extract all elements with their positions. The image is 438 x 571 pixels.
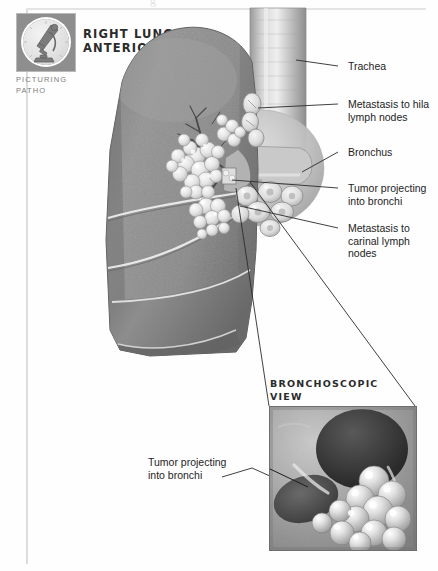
- label-tumor-projecting-line2: into bronchi: [348, 195, 402, 207]
- label-metastasis-carinal-line1: Metastasis to: [348, 222, 410, 234]
- label-tumor-projecting-line1: Tumor projecting: [348, 182, 426, 194]
- label-metastasis-hila-line2: lymph nodes: [348, 111, 408, 123]
- label-tumor-projecting: Tumor projecting into bronchi: [348, 182, 438, 207]
- label-trachea: Trachea: [348, 60, 436, 73]
- label-bronchus: Bronchus: [348, 146, 436, 159]
- label-metastasis-carinal-line3: nodes: [348, 247, 377, 259]
- label-metastasis-carinal: Metastasis to carinal lymph nodes: [348, 222, 434, 260]
- label-metastasis-carinal-line2: carinal lymph: [348, 235, 410, 247]
- label-metastasis-hila: Metastasis to hila lymph nodes: [348, 98, 438, 123]
- label-tumor-bronchoscopy-line2: into bronchi: [148, 469, 202, 481]
- endobronchial-tumor: [222, 168, 236, 184]
- label-tumor-projecting-bronchoscopy: Tumor projecting into bronchi: [148, 456, 258, 481]
- illustration-page: g: [0, 0, 438, 571]
- bronchoscopy-artwork: [270, 407, 416, 550]
- label-tumor-bronchoscopy-line1: Tumor projecting: [148, 456, 226, 468]
- bronchoscopic-view-image: [269, 406, 417, 551]
- label-metastasis-hila-line1: Metastasis to hila: [348, 98, 429, 110]
